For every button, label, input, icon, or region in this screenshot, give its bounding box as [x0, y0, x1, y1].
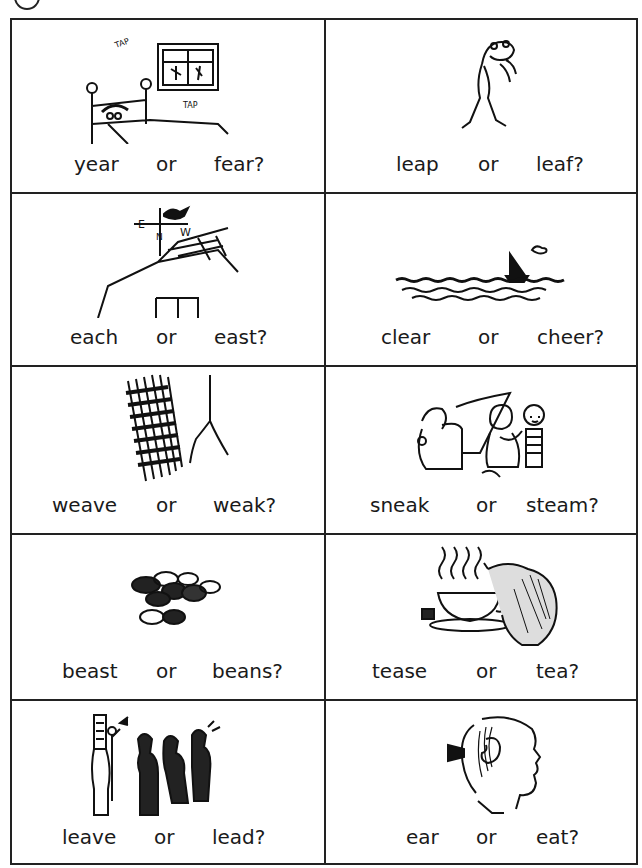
children-sneaking-icon	[326, 371, 638, 489]
word-option-1[interactable]: ear	[406, 825, 439, 849]
word-pair: clear or cheer?	[326, 325, 638, 355]
svg-text:N: N	[156, 232, 163, 242]
card-leap-leaf: leap or leaf?	[326, 20, 638, 192]
card-beast-beans: beast or beans?	[12, 535, 324, 699]
card-year-fear: TAP TAP year or fear?	[12, 20, 324, 192]
word-pair: tease or tea?	[326, 659, 638, 689]
word-option-1[interactable]: tease	[372, 659, 427, 683]
svg-text:E: E	[138, 218, 145, 231]
teacup-teapot-icon	[326, 539, 638, 657]
word-option-2[interactable]: tea?	[536, 659, 579, 683]
or-label: or	[156, 493, 176, 517]
word-option-2[interactable]: beans?	[212, 659, 283, 683]
word-option-2[interactable]: eat?	[536, 825, 579, 849]
svg-text:TAP: TAP	[113, 36, 131, 50]
or-label: or	[156, 325, 176, 349]
weathervane-roof-icon: E N W	[12, 198, 324, 316]
sea-sailboat-icon	[326, 198, 638, 316]
word-option-2[interactable]: lead?	[212, 825, 265, 849]
word-pair: weave or weak?	[12, 493, 324, 523]
word-option-1[interactable]: leap	[396, 152, 439, 176]
word-option-2[interactable]: fear?	[214, 152, 264, 176]
or-label: or	[156, 152, 176, 176]
card-weave-weak: weave or weak?	[12, 367, 324, 533]
bed-window-tap-icon: TAP TAP	[12, 24, 324, 142]
card-sneak-steam: sneak or steam?	[326, 367, 638, 533]
card-ear-eat: ear or eat?	[326, 701, 638, 865]
word-pair: beast or beans?	[12, 659, 324, 689]
word-pair: leave or lead?	[12, 825, 324, 855]
or-label: or	[478, 152, 498, 176]
word-option-2[interactable]: steam?	[526, 493, 599, 517]
word-option-1[interactable]: weave	[52, 493, 117, 517]
word-option-2[interactable]: leaf?	[536, 152, 584, 176]
marching-band-icon	[12, 705, 324, 823]
word-option-1[interactable]: sneak	[370, 493, 429, 517]
word-pair: ear or eat?	[326, 825, 638, 855]
worksheet-grid: TAP TAP year or fear? leap or leaf?	[10, 18, 638, 865]
word-pair: each or east?	[12, 325, 324, 355]
word-option-2[interactable]: east?	[214, 325, 267, 349]
or-label: or	[156, 659, 176, 683]
word-option-1[interactable]: year	[74, 152, 119, 176]
word-option-1[interactable]: each	[70, 325, 118, 349]
card-leave-lead: leave or lead?	[12, 701, 324, 865]
word-option-2[interactable]: cheer?	[537, 325, 604, 349]
beans-icon	[12, 539, 324, 657]
exercise-number-circle	[14, 0, 40, 10]
or-label: or	[154, 825, 174, 849]
word-option-1[interactable]: clear	[381, 325, 430, 349]
card-clear-cheer: clear or cheer?	[326, 194, 638, 365]
word-option-1[interactable]: beast	[62, 659, 118, 683]
ear-profile-icon	[326, 705, 638, 823]
or-label: or	[478, 325, 498, 349]
svg-text:TAP: TAP	[182, 101, 198, 110]
basket-weave-icon	[12, 371, 324, 489]
word-pair: year or fear?	[12, 152, 324, 182]
word-option-2[interactable]: weak?	[213, 493, 276, 517]
or-label: or	[476, 825, 496, 849]
word-option-1[interactable]: leave	[62, 825, 116, 849]
svg-text:W: W	[180, 226, 191, 239]
card-tease-tea: tease or tea?	[326, 535, 638, 699]
word-pair: sneak or steam?	[326, 493, 638, 523]
word-pair: leap or leaf?	[326, 152, 638, 182]
frog-leaping-icon	[326, 24, 638, 142]
or-label: or	[476, 659, 496, 683]
or-label: or	[476, 493, 496, 517]
card-each-east: E N W each or east?	[12, 194, 324, 365]
